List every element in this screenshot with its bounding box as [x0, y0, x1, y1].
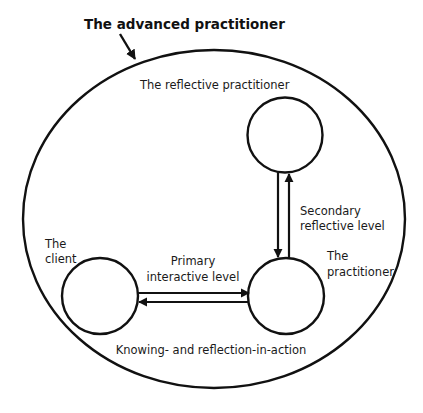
practitioner-node [248, 258, 324, 334]
knowing-reflection-in-action-label: Knowing- and reflection-in-action [116, 343, 307, 357]
reflective-node [248, 98, 323, 173]
client-label-line1: The [44, 237, 66, 251]
diagram-title: The advanced practitioner [84, 16, 285, 32]
reflective-practitioner-label: The reflective practitioner [139, 78, 290, 92]
practitioner-label-line1: The [326, 249, 348, 263]
practitioner-label-line2: practitioner [327, 265, 394, 279]
secondary-level-label-line2: reflective level [300, 219, 385, 233]
client-label-line2: client [45, 252, 77, 266]
primary-level-label-line1: Primary [171, 254, 216, 268]
client-node [62, 258, 138, 334]
primary-level-label-line2: interactive level [147, 270, 240, 284]
title-pointer-arrow [120, 34, 135, 59]
advanced-practitioner-diagram: The advanced practitioner The reflective… [0, 0, 423, 413]
secondary-level-label-line1: Secondary [300, 204, 361, 218]
